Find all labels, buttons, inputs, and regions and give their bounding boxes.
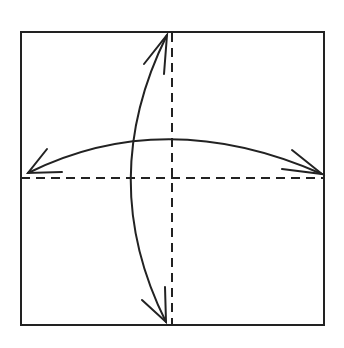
arrowhead-top-icon: [144, 35, 167, 74]
horizontal-fold-unfold-arrow: [28, 139, 322, 174]
origami-diagram: [0, 0, 344, 348]
arrowhead-right-icon: [282, 150, 322, 174]
